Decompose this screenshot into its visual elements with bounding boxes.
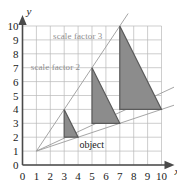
x-tick-8: 8 [127,171,141,182]
x-tick-9: 9 [141,171,155,182]
y-tick-10: 10 [3,21,19,32]
x-tick-3: 3 [57,171,71,182]
x-tick-1: 1 [29,171,43,182]
y-tick-7: 7 [3,63,19,74]
y-tick-6: 6 [3,77,19,88]
y-tick-0: 0 [3,160,19,171]
annotation-scale-factor-3: scale factor 3 [53,32,102,41]
x-tick-0: 0 [16,171,30,182]
y-tick-8: 8 [3,49,19,60]
x-axis-arrowhead [165,161,175,169]
enlargement-diagram [0,0,177,185]
x-tick-4: 4 [71,171,85,182]
y-tick-1: 1 [3,146,19,157]
y-tick-9: 9 [3,35,19,46]
annotation-scale-factor-2: scale factor 2 [31,63,80,72]
x-tick-6: 6 [99,171,113,182]
x-tick-10: 10 [155,171,169,182]
y-tick-3: 3 [3,118,19,129]
figure-canvas: 012345678910109876543210 x y scale facto… [0,0,177,185]
y-tick-5: 5 [3,91,19,102]
y-tick-4: 4 [3,104,19,115]
y-tick-2: 2 [3,132,19,143]
annotation-object: object [79,140,103,150]
x-tick-2: 2 [43,171,57,182]
x-axis-label: x [175,166,178,177]
x-tick-7: 7 [113,171,127,182]
y-axis-arrowhead [18,15,26,25]
x-tick-5: 5 [85,171,99,182]
y-axis-label: y [27,6,32,17]
